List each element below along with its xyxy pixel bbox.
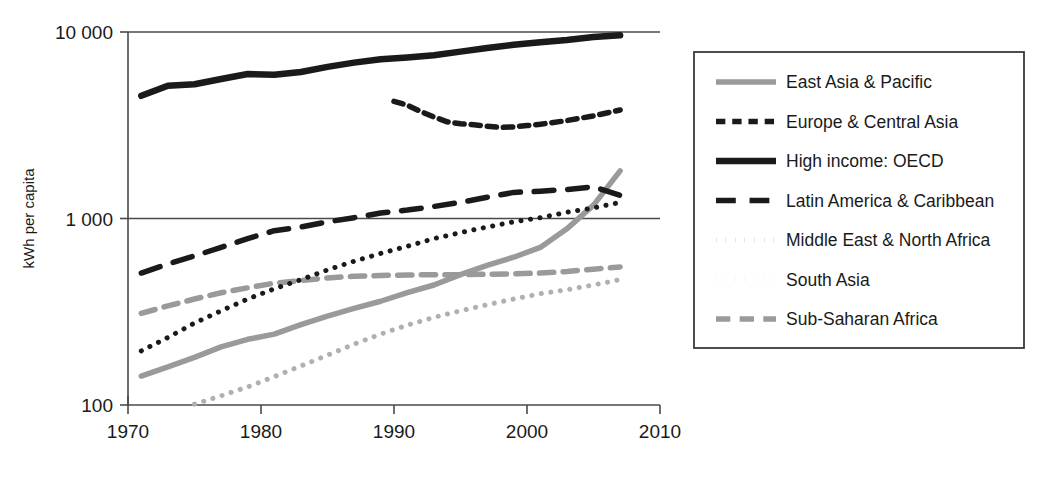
legend-group: East Asia & PacificEurope & Central Asia… (694, 52, 1024, 348)
legend-label-south-asia: South Asia (786, 270, 870, 290)
y-tick-label-10000: 10 000 (55, 22, 113, 43)
legend-label-sub-saharan-africa: Sub-Saharan Africa (786, 309, 938, 329)
x-tick-label-1990: 1990 (373, 421, 415, 442)
legend-label-latin-america-caribbean: Latin America & Caribbean (786, 191, 994, 211)
y-tick-label-100: 100 (81, 395, 113, 416)
legend-label-middle-east-north-africa: Middle East & North Africa (786, 230, 991, 250)
series-line-latin-america-caribbean (141, 187, 620, 273)
series-line-sub-saharan-africa (141, 267, 620, 313)
y-axis-title: kWh per capita (20, 168, 37, 269)
legend-label-europe-central-asia: Europe & Central Asia (786, 112, 958, 132)
x-tick-label-2010: 2010 (639, 421, 681, 442)
series-line-high-income-oecd (141, 35, 620, 95)
line-chart: 1001 00010 00019701980199020002010 kWh p… (0, 0, 1037, 479)
legend-label-high-income-oecd: High income: OECD (786, 151, 944, 171)
y-axis-title-group: kWh per capita (20, 168, 37, 269)
x-tick-label-1980: 1980 (240, 421, 282, 442)
data-series-group (141, 35, 620, 404)
x-tick-label-2000: 2000 (506, 421, 548, 442)
tick-labels-group: 1001 00010 00019701980199020002010 (55, 22, 681, 442)
series-line-south-asia (195, 280, 621, 405)
x-tick-label-1970: 1970 (107, 421, 149, 442)
y-tick-label-1000: 1 000 (65, 209, 113, 230)
legend-label-east-asia-pacific: East Asia & Pacific (786, 72, 932, 92)
series-line-europe-central-asia (394, 101, 620, 127)
chart-figure: 1001 00010 00019701980199020002010 kWh p… (0, 0, 1037, 479)
